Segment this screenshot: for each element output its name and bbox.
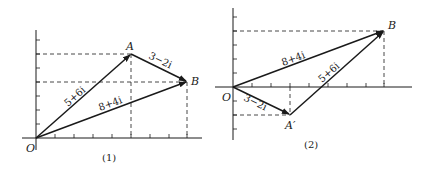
point-B-label: B xyxy=(190,75,199,88)
point-A-prime-label: A′ xyxy=(284,119,296,132)
y-ticks xyxy=(233,17,237,129)
x-ticks xyxy=(55,134,187,138)
origin-label: O xyxy=(26,142,35,155)
vector-AB-label: 3−2i xyxy=(147,50,174,71)
vector-OB xyxy=(36,82,186,138)
figure-2-caption: (2) xyxy=(304,139,318,150)
vector-A-prime-B xyxy=(290,32,383,115)
point-A-label: A xyxy=(125,40,134,53)
vector-OA-prime-label: 3−2i xyxy=(242,92,269,113)
figure-1-caption: (1) xyxy=(102,152,116,163)
figure-1: O A B 5+6i 3−2i 8+4i (1) xyxy=(22,30,202,163)
figure-2: O A′ B 3−2i 5+6i 8+4i (2) xyxy=(215,8,412,150)
complex-addition-diagram: O A B 5+6i 3−2i 8+4i (1) xyxy=(0,0,428,170)
x-ticks xyxy=(252,83,384,87)
origin-label: O xyxy=(222,91,231,104)
vector-OB xyxy=(233,31,383,87)
point-B-label: B xyxy=(387,19,396,32)
